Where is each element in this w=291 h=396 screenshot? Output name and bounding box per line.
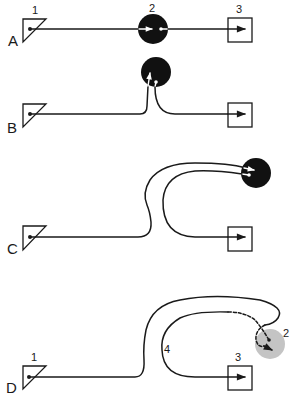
panel-label-c: C	[7, 240, 18, 257]
node-2-label: 2	[149, 2, 155, 14]
path-outer	[29, 297, 280, 378]
path-4-label: 4	[164, 343, 170, 355]
node-1-label: 1	[31, 351, 37, 363]
node-1-label: 1	[32, 4, 38, 16]
panel-label-d: D	[6, 379, 17, 396]
target-node-icon	[228, 103, 252, 127]
diagram-canvas: A 1 2 3 B C	[0, 0, 291, 396]
source-node-icon	[23, 19, 46, 42]
panel-label-b: B	[7, 119, 17, 136]
panel-d: D 1 2 4 3	[6, 297, 289, 396]
node-3-label: 3	[235, 351, 241, 363]
diagram-figure: A 1 2 3 B C	[0, 0, 291, 396]
target-node-icon	[228, 366, 252, 390]
path-outer	[30, 163, 245, 237]
node-2-label: 2	[283, 327, 289, 339]
relay-node-faded-icon	[255, 329, 285, 359]
panel-label-a: A	[8, 32, 18, 49]
source-node-icon	[23, 104, 46, 127]
path-segment	[242, 174, 249, 175]
node-3-label: 3	[236, 3, 242, 15]
relay-node-icon	[241, 158, 271, 188]
target-node-icon	[228, 227, 252, 251]
panel-b: B	[7, 57, 252, 136]
panel-c: C	[7, 158, 271, 257]
panel-a: A 1 2 3	[8, 2, 252, 49]
target-node-icon	[228, 18, 252, 42]
path-segment	[155, 82, 156, 87]
source-node-icon	[23, 226, 46, 250]
path-segment	[30, 86, 148, 114]
